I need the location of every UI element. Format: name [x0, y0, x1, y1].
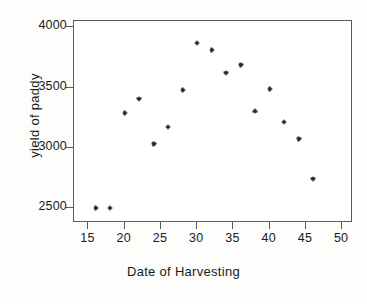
- x-tick-label: 30: [176, 231, 216, 245]
- data-point: [94, 207, 97, 210]
- x-tick-label: 50: [321, 231, 361, 245]
- x-tick-label: 15: [67, 231, 107, 245]
- x-axis-label: Date of Harvesting: [0, 264, 367, 279]
- x-tick-mark: [232, 222, 233, 229]
- x-tick-label: 40: [249, 231, 289, 245]
- x-tick-label: 20: [104, 231, 144, 245]
- x-tick-label: 25: [140, 231, 180, 245]
- plot-area: [73, 20, 352, 222]
- data-point: [138, 97, 141, 100]
- x-tick-mark: [196, 222, 197, 229]
- data-point: [254, 110, 257, 113]
- x-tick-label: 45: [285, 231, 325, 245]
- x-tick-mark: [341, 222, 342, 229]
- data-point: [297, 137, 300, 140]
- x-tick-label: 35: [212, 231, 252, 245]
- y-axis-label: yield of paddy: [27, 36, 42, 196]
- x-tick-mark: [269, 222, 270, 229]
- scatter-chart: 2500300035004000 1520253035404550 yield …: [0, 0, 367, 304]
- y-tick-mark: [66, 26, 74, 27]
- x-tick-mark: [87, 222, 88, 229]
- data-point: [210, 49, 213, 52]
- y-tick-mark: [66, 147, 74, 148]
- data-point: [268, 87, 271, 90]
- data-point: [312, 177, 315, 180]
- data-point: [181, 88, 184, 91]
- y-tick-mark: [66, 87, 74, 88]
- data-point: [152, 142, 155, 145]
- data-point: [167, 125, 170, 128]
- data-point: [123, 112, 126, 115]
- data-point: [239, 63, 242, 66]
- y-tick-label: 2500: [19, 199, 67, 213]
- data-point: [196, 42, 199, 45]
- y-tick-mark: [66, 207, 74, 208]
- data-point: [283, 121, 286, 124]
- data-point: [109, 207, 112, 210]
- y-tick-label: 4000: [19, 18, 67, 32]
- x-tick-mark: [124, 222, 125, 229]
- data-point: [225, 71, 228, 74]
- x-tick-mark: [305, 222, 306, 229]
- x-tick-mark: [160, 222, 161, 229]
